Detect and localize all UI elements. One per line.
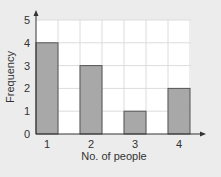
bar-1	[36, 43, 58, 134]
y-tick-labels: 012345	[24, 14, 30, 140]
y-axis-label: Frequency	[4, 51, 16, 103]
bar-3	[124, 111, 146, 134]
y-tick-label: 2	[24, 82, 30, 94]
y-axis-arrow-icon	[34, 10, 39, 16]
x-axis-label: No. of people	[81, 150, 146, 162]
y-tick-label: 4	[24, 37, 30, 49]
y-tick-label: 5	[24, 14, 30, 26]
y-tick-label: 0	[24, 128, 30, 140]
x-tick-labels: 1234	[44, 138, 182, 150]
x-tick-label: 4	[176, 138, 182, 150]
x-axis-arrow-icon	[200, 132, 206, 137]
y-tick-label: 1	[24, 105, 30, 117]
bar-4	[168, 88, 190, 134]
x-tick-label: 3	[132, 138, 138, 150]
x-tick-label: 2	[88, 138, 94, 150]
y-tick-label: 3	[24, 60, 30, 72]
bar-2	[80, 66, 102, 134]
bar-chart: 012345 1234 Frequency No. of people	[0, 0, 221, 177]
chart-canvas: 012345 1234 Frequency No. of people	[0, 0, 221, 177]
x-tick-label: 1	[44, 138, 50, 150]
